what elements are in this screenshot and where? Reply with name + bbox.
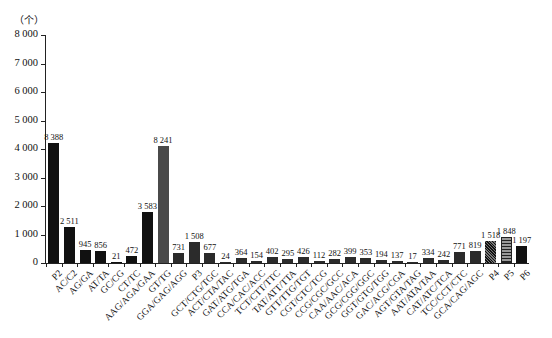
x-tick-mark	[46, 263, 47, 267]
value-label: 242	[437, 249, 450, 259]
x-tick-mark	[514, 263, 515, 267]
bar	[189, 242, 200, 263]
bar	[111, 262, 122, 263]
y-tick-label: 8 000	[0, 28, 38, 39]
bar	[95, 251, 106, 263]
x-tick-mark	[436, 263, 437, 267]
y-tick-label: 4 000	[0, 142, 38, 153]
bar	[501, 237, 512, 263]
value-label: 137	[391, 250, 404, 260]
bar	[251, 261, 262, 263]
value-label: 771	[453, 241, 466, 251]
x-tick-mark	[327, 263, 328, 267]
value-label: 731	[172, 242, 185, 252]
value-label: 945	[79, 239, 92, 249]
bar	[220, 262, 231, 263]
bar	[236, 258, 247, 263]
value-label: 112	[313, 250, 325, 260]
x-tick-mark	[420, 263, 421, 267]
y-tick-mark	[41, 149, 45, 150]
y-tick-label: 0	[0, 256, 38, 267]
bar	[173, 253, 184, 263]
y-tick-mark	[41, 121, 45, 122]
value-label: 1 197	[512, 235, 531, 245]
y-tick-mark	[41, 64, 45, 65]
value-label: 819	[469, 240, 482, 250]
bar	[470, 251, 481, 263]
bar	[64, 227, 75, 263]
y-axis-unit: （个）	[14, 12, 44, 27]
bar	[423, 258, 434, 263]
value-label: 21	[112, 251, 121, 261]
bar	[485, 241, 496, 263]
x-tick-mark	[452, 263, 453, 267]
bar	[360, 258, 371, 263]
y-tick-mark	[41, 263, 45, 264]
y-tick-label: 5 000	[0, 114, 38, 125]
bar	[345, 257, 356, 263]
bar	[438, 260, 449, 263]
x-tick-mark	[62, 263, 63, 267]
value-label: 856	[94, 240, 107, 250]
x-tick-mark	[358, 263, 359, 267]
x-tick-label: P4	[486, 268, 500, 282]
bar	[48, 143, 59, 263]
y-tick-mark	[41, 178, 45, 179]
x-tick-mark	[311, 263, 312, 267]
bar	[454, 252, 465, 263]
y-axis	[45, 35, 46, 263]
value-label: 334	[422, 247, 435, 257]
x-axis	[45, 263, 529, 264]
x-tick-mark	[483, 263, 484, 267]
x-tick-mark	[140, 263, 141, 267]
y-tick-label: 2 000	[0, 199, 38, 210]
value-label: 8 241	[153, 135, 172, 145]
x-tick-mark	[296, 263, 297, 267]
value-label: 472	[125, 245, 138, 255]
x-tick-mark	[264, 263, 265, 267]
y-tick-mark	[41, 35, 45, 36]
bar	[298, 257, 309, 263]
x-tick-mark	[93, 263, 94, 267]
y-tick-label: 3 000	[0, 171, 38, 182]
value-label: 24	[221, 251, 230, 261]
x-tick-mark	[77, 263, 78, 267]
x-tick-mark	[218, 263, 219, 267]
bar	[204, 253, 215, 263]
value-label: 1 508	[185, 231, 204, 241]
x-tick-mark	[389, 263, 390, 267]
x-tick-mark	[155, 263, 156, 267]
value-label: 8 388	[44, 132, 63, 142]
x-tick-mark	[467, 263, 468, 267]
x-tick-label: P5	[502, 268, 516, 282]
y-tick-mark	[41, 206, 45, 207]
bar	[392, 261, 403, 263]
value-label: 282	[328, 248, 341, 258]
value-label: 353	[359, 247, 372, 257]
x-tick-mark	[186, 263, 187, 267]
y-tick-label: 6 000	[0, 85, 38, 96]
x-tick-mark	[280, 263, 281, 267]
x-tick-label: P6	[518, 268, 532, 282]
value-label: 2 511	[60, 216, 79, 226]
value-label: 426	[297, 246, 310, 256]
value-label: 677	[203, 242, 216, 252]
x-tick-mark	[405, 263, 406, 267]
bar	[158, 146, 169, 263]
x-tick-mark	[108, 263, 109, 267]
y-tick-mark	[41, 92, 45, 93]
y-tick-label: 1 000	[0, 228, 38, 239]
x-tick-mark	[342, 263, 343, 267]
bar	[516, 246, 527, 263]
bar	[376, 260, 387, 263]
bar	[407, 262, 418, 263]
bar	[329, 259, 340, 263]
x-tick-mark	[233, 263, 234, 267]
x-tick-mark	[249, 263, 250, 267]
bar-chart: （个） 01 0002 0003 0004 0005 0006 0007 000…	[0, 0, 552, 338]
bar	[314, 261, 325, 263]
x-tick-mark	[498, 263, 499, 267]
bar	[267, 257, 278, 263]
value-label: 3 583	[138, 201, 157, 211]
y-tick-mark	[41, 235, 45, 236]
